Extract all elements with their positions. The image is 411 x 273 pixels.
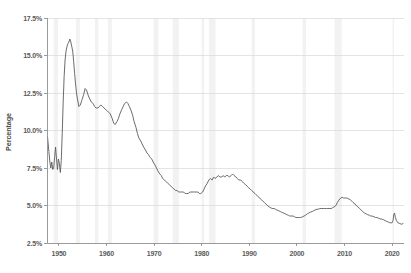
x-tick-label: 2020 bbox=[385, 250, 400, 257]
x-tick-label: 1990 bbox=[242, 250, 257, 257]
x-tick-label: 2010 bbox=[337, 250, 352, 257]
y-tick-label: 15.0% bbox=[23, 52, 43, 59]
y-tick-label: 2.5% bbox=[27, 240, 43, 247]
x-tick-label: 1980 bbox=[194, 250, 209, 257]
y-tick-label: 17.5% bbox=[23, 15, 43, 22]
x-tick-label: 1950 bbox=[52, 250, 67, 257]
x-tick-label: 2000 bbox=[290, 250, 305, 257]
y-tick-label: 10.0% bbox=[23, 127, 43, 134]
y-tick-label: 5.0% bbox=[27, 202, 43, 209]
chart-background bbox=[0, 0, 411, 273]
x-tick-label: 1970 bbox=[147, 250, 162, 257]
chart-container: 17.5%15.0%12.5%10.0%7.5%5.0%2.5% 1950196… bbox=[0, 0, 411, 273]
x-tick-label: 1960 bbox=[99, 250, 114, 257]
y-axis-title: Percentage bbox=[4, 113, 13, 151]
y-tick-label: 12.5% bbox=[23, 90, 43, 97]
y-tick-label: 7.5% bbox=[27, 165, 43, 172]
line-chart: 17.5%15.0%12.5%10.0%7.5%5.0%2.5% 1950196… bbox=[0, 0, 411, 273]
